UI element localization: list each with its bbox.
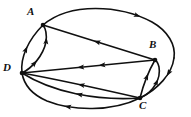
vertex-label-d: D bbox=[3, 62, 11, 73]
vertex-dot-b bbox=[153, 58, 158, 63]
vertex-label-c: C bbox=[139, 100, 146, 111]
edge-c-to-b-lens-outer bbox=[140, 60, 159, 98]
edge-c-to-d-outer-bottom bbox=[22, 73, 140, 109]
arrowhead-outer-ellipse-top-0 bbox=[133, 12, 141, 19]
edge-a-to-b-outer-top bbox=[43, 9, 174, 59]
vertex-dot-d bbox=[20, 71, 25, 76]
graph-svg bbox=[0, 0, 191, 117]
vertex-label-b: B bbox=[149, 39, 156, 50]
edge-d-to-b-chord bbox=[22, 60, 155, 73]
arrowhead-edge-ba-6 bbox=[93, 38, 101, 45]
vertex-dot-a bbox=[41, 23, 46, 28]
arrowhead-lens-cb-inner-11 bbox=[143, 72, 150, 80]
edge-b-to-a-chord bbox=[43, 25, 155, 60]
arrowhead-outer-ellipse-left-3 bbox=[22, 45, 29, 53]
vertex-label-a: A bbox=[27, 6, 34, 17]
figure-canvas: A B C D bbox=[0, 0, 191, 117]
